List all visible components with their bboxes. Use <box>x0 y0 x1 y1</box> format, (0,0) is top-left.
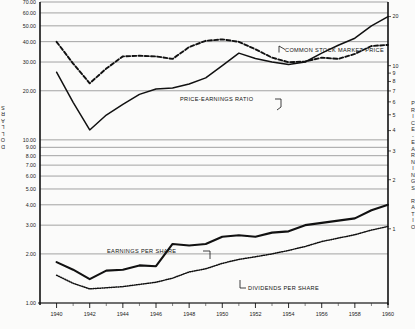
y-tick-right: 20 <box>393 13 399 19</box>
y-tick-left: 2.00 <box>26 251 36 257</box>
x-tick-label: 1946 <box>150 311 162 317</box>
y-axis-right-unit-label: PRICE-EARNINGS RATIO <box>410 100 415 230</box>
x-tick-label: 1954 <box>283 311 295 317</box>
y-axis-left-unit-label: DOLLARS <box>1 104 6 150</box>
y-tick-left: 70.00 <box>23 0 36 5</box>
series-line-common_stock_market_price <box>57 17 388 130</box>
y-tick-right: 9 <box>393 70 396 76</box>
x-tick-label: 1940 <box>51 311 63 317</box>
annotation-leader <box>275 99 281 110</box>
y-tick-left: 8.00 <box>26 153 36 159</box>
series-line-earnings_per_share <box>57 205 388 279</box>
y-axis-right-tick-labels: 2010987654321 <box>388 13 398 231</box>
annotation-leader <box>203 251 210 259</box>
y-tick-left: 1.00 <box>26 300 36 306</box>
y-tick-left: 50.00 <box>23 23 36 29</box>
x-tick-label: 1956 <box>316 311 328 317</box>
y-tick-right: 8 <box>393 78 396 84</box>
y-tick-left: 40.00 <box>23 39 36 45</box>
y-tick-right: 3 <box>393 148 396 154</box>
y-tick-right: 1 <box>393 226 396 232</box>
annotation-leader <box>240 280 246 288</box>
x-tick-label: 1950 <box>216 311 228 317</box>
annotation-label: PRICE-EARNINGS RATIO <box>180 96 254 102</box>
y-tick-right: 6 <box>393 99 396 105</box>
y-tick-left: 5.00 <box>26 186 36 192</box>
annotation-label: EARNINGS PER SHARE <box>107 248 176 254</box>
annotation-label: COMMON STOCK MARKET PRICE <box>285 47 384 53</box>
x-tick-label: 1960 <box>382 311 394 317</box>
stock-chart: DOLLARS PRICE-EARNINGS RATIO 70.0060.005… <box>0 0 415 329</box>
y-tick-left: 4.00 <box>26 202 36 208</box>
y-tick-left: 60.00 <box>23 10 36 16</box>
y-tick-right: 2 <box>393 177 396 183</box>
x-tick-label: 1952 <box>249 311 261 317</box>
x-tick-label: 1948 <box>183 311 195 317</box>
y-tick-left: 30.00 <box>23 59 36 65</box>
x-tick-label: 1942 <box>84 311 96 317</box>
y-tick-left: 20.00 <box>23 88 36 94</box>
annotation-label: DIVIDENDS PER SHARE <box>248 285 319 291</box>
y-tick-left: 6.00 <box>26 173 36 179</box>
x-tick-label: 1944 <box>117 311 129 317</box>
y-axis-left-tick-labels: 70.0060.0050.0040.0030.0020.0010.009.008… <box>23 0 36 306</box>
y-tick-left: 10.00 <box>23 137 36 143</box>
x-tick-label: 1958 <box>349 311 361 317</box>
y-tick-left: 3.00 <box>26 222 36 228</box>
x-axis-tick-labels: 1940194219441946194819501952195419561958… <box>51 311 394 317</box>
y-tick-left: 9.00 <box>26 144 36 150</box>
series-annotations: COMMON STOCK MARKET PRICEPRICE-EARNINGS … <box>107 46 384 291</box>
chart-plot-area: 70.0060.0050.0040.0030.0020.0010.009.008… <box>0 0 415 329</box>
y-tick-right: 5 <box>393 112 396 118</box>
y-tick-right: 10 <box>393 63 399 69</box>
x-axis-ticks <box>57 303 388 308</box>
y-tick-right: 4 <box>393 127 396 133</box>
y-tick-left: 7.00 <box>26 162 36 168</box>
y-tick-right: 7 <box>393 88 396 94</box>
